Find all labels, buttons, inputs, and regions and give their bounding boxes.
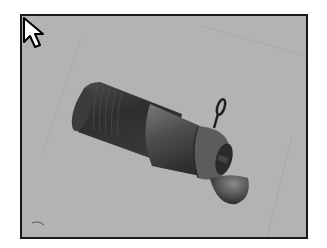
model-canvas[interactable] — [22, 16, 306, 237]
hanging-ring[interactable] — [214, 98, 227, 128]
3d-viewport[interactable] — [20, 14, 308, 239]
axis-indicator — [32, 222, 44, 225]
tip-collar[interactable] — [194, 126, 236, 180]
hinged-cap[interactable] — [210, 175, 249, 204]
tapered-nozzle[interactable] — [145, 104, 200, 176]
arrow-cursor-icon — [22, 16, 46, 50]
